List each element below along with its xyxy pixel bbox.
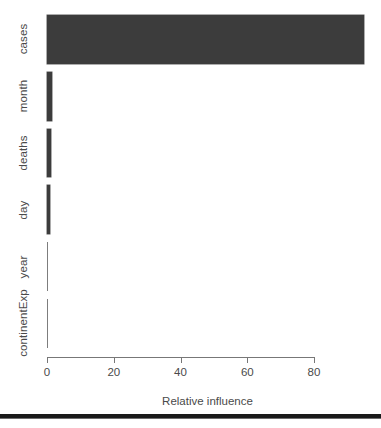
category-label-text: day (17, 200, 29, 219)
x-tick-label-0: 0 (44, 366, 50, 378)
x-tick-label-20: 20 (107, 366, 120, 378)
bar-cases (47, 15, 364, 64)
category-label-1: month (6, 68, 40, 125)
page-bottom-rule-secondary (0, 418, 381, 419)
x-tick-0 (47, 357, 48, 363)
bar-year (47, 242, 48, 291)
x-tick-40 (181, 357, 182, 363)
x-tick-label-40: 40 (174, 366, 187, 378)
bar-slot (47, 125, 377, 182)
bar-month (47, 72, 52, 121)
category-label-2: deaths (6, 125, 40, 182)
category-label-0: cases (6, 11, 40, 68)
bar-deaths (47, 129, 51, 178)
category-label-3: day (6, 181, 40, 238)
x-axis-title: Relative influence (0, 395, 381, 407)
category-label-text: month (17, 80, 29, 112)
x-tick-label-80: 80 (308, 366, 321, 378)
category-label-5: continentExp (6, 295, 40, 352)
chart-root: cases month deaths day year continentExp (0, 0, 381, 428)
bar-slot (47, 68, 377, 125)
plot-area: cases month deaths day year continentExp (0, 0, 381, 428)
bar-slot (47, 11, 377, 68)
category-label-text: year (17, 255, 29, 278)
x-tick-60 (247, 357, 248, 363)
bar-series (47, 11, 377, 352)
bar-slot (47, 238, 377, 295)
bar-slot (47, 181, 377, 238)
bar-day (47, 185, 50, 234)
category-axis-labels: cases month deaths day year continentExp (6, 11, 40, 352)
category-label-text: deaths (17, 135, 29, 170)
bar-continentExp (47, 299, 48, 348)
x-tick-20 (114, 357, 115, 363)
x-tick-80 (314, 357, 315, 363)
x-tick-label-60: 60 (241, 366, 254, 378)
category-label-text: continentExp (17, 290, 29, 358)
x-axis-title-text: Relative influence (128, 395, 253, 407)
bar-slot (47, 295, 377, 352)
category-label-4: year (6, 238, 40, 295)
category-label-text: cases (17, 24, 29, 55)
